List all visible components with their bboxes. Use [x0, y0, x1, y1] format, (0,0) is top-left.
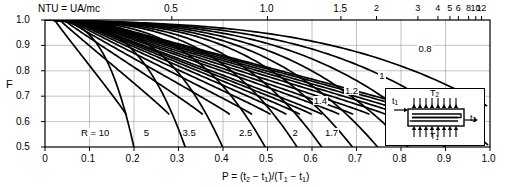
y-tick-label: 0.7 [16, 90, 30, 101]
chart-figure: NTU = UA/mc F P = (t2 − t1)/(T1 − t1) [0, 0, 513, 187]
curve-label: 0.8 [417, 44, 432, 54]
y-tick-label: 1.0 [16, 14, 30, 25]
x-tick-label: 1.0 [482, 153, 496, 164]
top-tick-label: 3 [415, 3, 420, 13]
curve-label: 2 [292, 128, 299, 138]
x-tick-label: 0.5 [259, 153, 273, 164]
inset-label-T2: T2 [430, 88, 439, 98]
top-tick-label: 5 [447, 3, 452, 13]
curve-label: R = 10 [80, 128, 110, 138]
x-tick-label: 0.6 [304, 153, 318, 164]
top-tick-label: 0.5 [164, 3, 178, 14]
x-tick-label: 0.7 [348, 153, 362, 164]
curve-label: 1 [378, 71, 385, 81]
x-tick-label: 0.1 [81, 153, 95, 164]
inset-label-t2: t2 [470, 113, 476, 123]
y-tick-label: 0.9 [16, 39, 30, 50]
curve-label: 5 [143, 128, 150, 138]
top-tick-label: 6 [456, 3, 461, 13]
x-tick-label: 0.8 [393, 153, 407, 164]
x-tick-label: 0.9 [437, 153, 451, 164]
y-tick-label: 0.6 [16, 116, 30, 127]
top-tick-label: 1.5 [333, 3, 347, 14]
curve-label: 1.4 [313, 96, 328, 106]
y-tick-label: 0.5 [16, 141, 30, 152]
curve-label: 2.5 [238, 128, 253, 138]
x-tick-label: 0.2 [126, 153, 140, 164]
heat-exchanger-inset: t1 t2 T2 T1 [385, 88, 485, 146]
x-tick-label: 0 [42, 153, 48, 164]
x-tick-label: 0.3 [170, 153, 184, 164]
top-tick-label: 2 [374, 3, 379, 13]
top-tick-label: 12 [476, 3, 486, 13]
curve-label: 3.5 [182, 128, 197, 138]
top-tick-label: 4 [435, 3, 440, 13]
curve-label: 1.2 [344, 86, 359, 96]
inset-label-T1: T1 [430, 131, 439, 141]
x-tick-label: 0.4 [215, 153, 229, 164]
curve-label: 1.7 [324, 128, 339, 138]
inset-label-t1: t1 [392, 96, 398, 106]
y-tick-label: 0.8 [16, 65, 30, 76]
top-tick-label: 1.0 [260, 3, 274, 14]
